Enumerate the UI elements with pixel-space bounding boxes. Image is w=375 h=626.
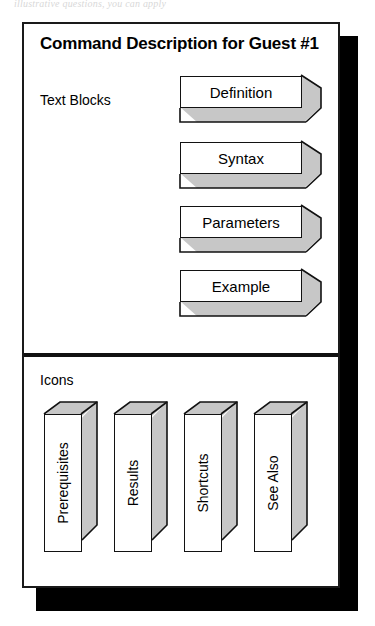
block-outline <box>180 76 320 122</box>
icon-block-results[interactable]: Results <box>114 402 172 552</box>
section-label-text-blocks: Text Blocks <box>40 92 111 108</box>
block-outline <box>180 142 320 188</box>
block-outline <box>180 206 320 252</box>
icon-block-see-also[interactable]: See Also <box>254 402 312 552</box>
text-block-definition[interactable]: Definition <box>180 76 320 122</box>
block-outline <box>184 402 242 554</box>
page-title: Command Description for Guest #1 <box>40 34 319 54</box>
scan-top-text-fragment: illustrative questions, you can apply <box>14 0 204 10</box>
block-outline <box>180 270 320 316</box>
text-block-example[interactable]: Example <box>180 270 320 316</box>
text-block-syntax[interactable]: Syntax <box>180 142 320 188</box>
section-label-icons: Icons <box>40 372 73 388</box>
block-outline <box>114 402 172 554</box>
block-outline <box>254 402 312 554</box>
text-block-parameters[interactable]: Parameters <box>180 206 320 252</box>
section-divider <box>24 353 338 357</box>
icon-block-prerequisites[interactable]: Prerequisites <box>44 402 102 552</box>
diagram-frame: Command Description for Guest #1 Text Bl… <box>22 22 340 588</box>
icon-block-shortcuts[interactable]: Shortcuts <box>184 402 242 552</box>
block-outline <box>44 402 102 554</box>
